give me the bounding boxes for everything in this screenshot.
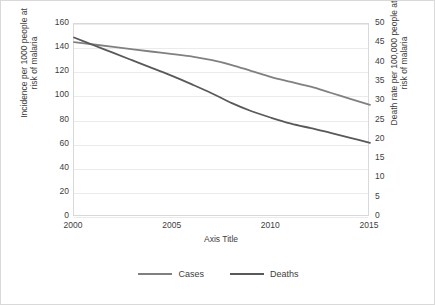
y-axis-right-tick-label: 45 bbox=[375, 37, 417, 46]
legend-swatch-deaths bbox=[230, 273, 264, 275]
x-axis-tick-label: 2010 bbox=[261, 220, 280, 230]
y-axis-left-tick-label: 20 bbox=[27, 187, 69, 196]
x-axis-tick-labels: 2000200520102015 bbox=[73, 220, 369, 234]
x-axis-tick-label: 2015 bbox=[360, 220, 379, 230]
series-line-cases bbox=[74, 42, 370, 105]
x-axis-tick-label: 2005 bbox=[162, 220, 181, 230]
series-line-deaths bbox=[74, 38, 370, 143]
series-lines bbox=[74, 24, 370, 217]
y-axis-left-tick-label: 160 bbox=[27, 18, 69, 27]
y-axis-right-tick-label: 20 bbox=[375, 134, 417, 143]
y-axis-left-tick-labels: 020406080100120140160 bbox=[25, 23, 69, 216]
x-axis-title: Axis Title bbox=[73, 234, 369, 244]
y-axis-right-tick-label: 25 bbox=[375, 115, 417, 124]
y-axis-right-tick-label: 40 bbox=[375, 57, 417, 66]
legend-entry-deaths[interactable]: Deaths bbox=[230, 269, 299, 279]
y-axis-left-tick-label: 80 bbox=[27, 115, 69, 124]
legend-label-deaths: Deaths bbox=[270, 269, 299, 279]
y-axis-right-tick-label: 50 bbox=[375, 18, 417, 27]
y-axis-left-tick-label: 40 bbox=[27, 163, 69, 172]
y-axis-right-tick-label: 5 bbox=[375, 192, 417, 201]
chart-legend: CasesDeaths bbox=[1, 269, 435, 279]
y-axis-right-tick-labels: 05101520253035404550 bbox=[375, 23, 419, 216]
legend-label-cases: Cases bbox=[178, 269, 204, 279]
y-axis-right-tick-label: 0 bbox=[375, 211, 417, 220]
y-axis-left-tick-label: 0 bbox=[27, 211, 69, 220]
y-axis-right-tick-label: 15 bbox=[375, 153, 417, 162]
y-axis-right-tick-label: 30 bbox=[375, 95, 417, 104]
gridline bbox=[74, 217, 368, 218]
plot-area bbox=[73, 23, 369, 216]
malaria-dual-axis-line-chart: Incidence per 1000 people at risk of mal… bbox=[0, 0, 435, 305]
y-axis-left-tick-label: 100 bbox=[27, 90, 69, 99]
y-axis-left-tick-label: 60 bbox=[27, 139, 69, 148]
legend-entry-cases[interactable]: Cases bbox=[138, 269, 204, 279]
y-axis-right-tick-label: 10 bbox=[375, 172, 417, 181]
x-axis-tick-label: 2000 bbox=[64, 220, 83, 230]
y-axis-left-tick-label: 140 bbox=[27, 42, 69, 51]
y-axis-right-tick-label: 35 bbox=[375, 76, 417, 85]
legend-swatch-cases bbox=[138, 273, 172, 275]
y-axis-left-tick-label: 120 bbox=[27, 66, 69, 75]
